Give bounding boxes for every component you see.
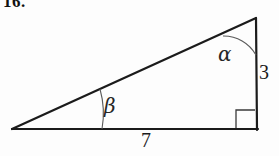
problem-number: 16. — [3, 0, 26, 10]
geometry-figure: 16. 3 7 α β — [0, 0, 279, 156]
triangle-diagram — [0, 0, 279, 156]
vertical-leg-line — [256, 18, 257, 130]
angle-label-alpha: α — [218, 44, 232, 64]
beta-angle-arc — [100, 89, 103, 129]
side-label-vertical: 3 — [259, 62, 269, 82]
angle-label-beta: β — [104, 96, 116, 116]
side-label-base: 7 — [141, 130, 151, 150]
right-angle-marker-icon — [236, 110, 255, 128]
hypotenuse-line — [12, 18, 256, 129]
